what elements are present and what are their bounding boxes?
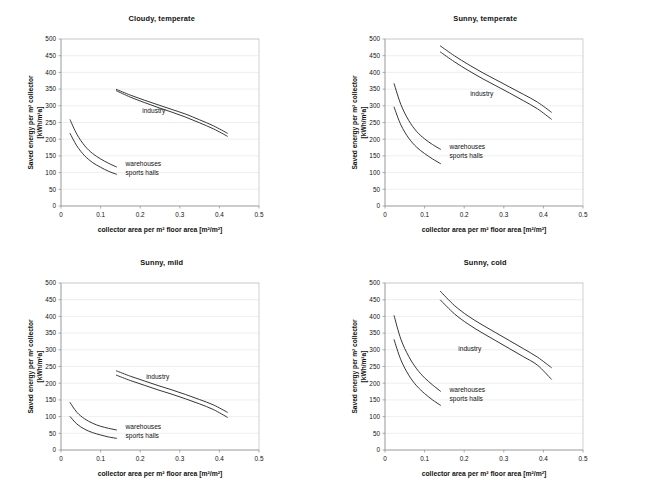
series-label: sports halls xyxy=(126,169,160,177)
plot-area: 05010015020025030035040045050000.10.20.3… xyxy=(0,0,324,244)
x-axis-ticks: 00.10.20.30.40.5 xyxy=(59,206,264,218)
x-tick-label: 0.4 xyxy=(538,455,547,462)
y-tick-label: 500 xyxy=(369,279,380,286)
x-tick-label: 0.5 xyxy=(578,455,587,462)
x-tick-label: 0.3 xyxy=(499,211,508,218)
chart-panel-3: Sunny, mild05010015020025030035040045050… xyxy=(0,244,324,488)
y-tick-label: 250 xyxy=(369,363,380,370)
chart-panel-4: Sunny, cold05010015020025030035040045050… xyxy=(324,244,647,488)
y-axis-ticks: 050100150200250300350400450500 xyxy=(45,279,61,453)
y-tick-label: 300 xyxy=(369,346,380,353)
y-axis-title-line1: Saved energy per m² collector xyxy=(351,319,359,414)
y-tick-label: 200 xyxy=(45,136,56,143)
x-tick-label: 0.3 xyxy=(175,455,184,462)
series-label: sports halls xyxy=(449,152,483,160)
x-tick-label: 0 xyxy=(383,211,387,218)
y-axis-ticks: 050100150200250300350400450500 xyxy=(369,279,385,453)
y-tick-label: 400 xyxy=(45,313,56,320)
y-tick-label: 0 xyxy=(376,446,380,453)
x-axis-ticks: 00.10.20.30.40.5 xyxy=(383,450,588,462)
plot-area: 05010015020025030035040045050000.10.20.3… xyxy=(324,244,647,488)
y-tick-label: 100 xyxy=(45,169,56,176)
x-tick-label: 0 xyxy=(59,211,63,218)
y-tick-label: 50 xyxy=(49,186,57,193)
y-tick-label: 200 xyxy=(369,380,380,387)
y-tick-label: 450 xyxy=(45,296,56,303)
y-tick-label: 450 xyxy=(369,52,380,59)
y-axis-title-line1: Saved energy per m² collector xyxy=(27,319,35,414)
series-label: industry xyxy=(146,373,170,381)
series-label: industry xyxy=(470,90,494,98)
x-axis-title: collector area per m² floor area [m²/m²] xyxy=(98,470,223,478)
x-tick-label: 0.1 xyxy=(96,211,105,218)
x-tick-label: 0.2 xyxy=(459,455,468,462)
x-tick-label: 0.3 xyxy=(499,455,508,462)
y-tick-label: 150 xyxy=(369,396,380,403)
y-tick-label: 250 xyxy=(369,119,380,126)
x-tick-label: 0.1 xyxy=(420,211,429,218)
series-label: sports halls xyxy=(126,432,160,440)
y-tick-label: 450 xyxy=(369,296,380,303)
x-axis-title: collector area per m² floor area [m²/m²] xyxy=(98,226,223,234)
series-label: sports halls xyxy=(449,395,483,403)
x-tick-label: 0.5 xyxy=(255,211,264,218)
series-label: warehouses xyxy=(125,160,162,167)
y-tick-label: 500 xyxy=(45,279,56,286)
y-tick-label: 500 xyxy=(369,35,380,42)
y-tick-label: 350 xyxy=(369,329,380,336)
y-tick-label: 500 xyxy=(45,35,56,42)
x-tick-label: 0.1 xyxy=(420,455,429,462)
y-tick-label: 250 xyxy=(45,119,56,126)
x-tick-label: 0.2 xyxy=(136,455,145,462)
series-label: industry xyxy=(458,345,482,353)
x-tick-label: 0.2 xyxy=(459,211,468,218)
series-label: warehouses xyxy=(448,143,485,150)
y-tick-label: 300 xyxy=(45,346,56,353)
x-tick-label: 0.1 xyxy=(96,455,105,462)
y-tick-label: 350 xyxy=(45,85,56,92)
y-tick-label: 400 xyxy=(369,313,380,320)
y-axis-title: Saved energy per m² collector[kWh/m²a] xyxy=(351,75,368,170)
y-tick-label: 0 xyxy=(52,202,56,209)
y-tick-label: 450 xyxy=(45,52,56,59)
y-tick-label: 350 xyxy=(369,85,380,92)
y-tick-label: 400 xyxy=(45,69,56,76)
chart-panel-1: Cloudy, temperate05010015020025030035040… xyxy=(0,0,324,244)
y-axis-title-line2: [kWh/m²a] xyxy=(359,107,367,139)
x-tick-label: 0 xyxy=(59,455,63,462)
x-tick-label: 0.5 xyxy=(255,455,264,462)
y-tick-label: 0 xyxy=(376,202,380,209)
y-tick-label: 100 xyxy=(45,413,56,420)
y-tick-label: 100 xyxy=(369,413,380,420)
y-tick-label: 350 xyxy=(45,329,56,336)
y-axis-ticks: 050100150200250300350400450500 xyxy=(369,35,385,209)
x-axis-title: collector area per m² floor area [m²/m²] xyxy=(421,470,546,478)
y-tick-label: 150 xyxy=(45,152,56,159)
y-tick-label: 150 xyxy=(45,396,56,403)
x-axis-title: collector area per m² floor area [m²/m²] xyxy=(421,226,546,234)
series-label: warehouses xyxy=(448,386,485,393)
y-tick-label: 300 xyxy=(45,102,56,109)
y-axis-title: Saved energy per m² collector[kWh/m²a] xyxy=(27,75,44,170)
plot-area: 05010015020025030035040045050000.10.20.3… xyxy=(0,244,324,488)
y-axis-title-line2: [kWh/m²a] xyxy=(36,107,44,139)
series-label: industry xyxy=(142,107,166,115)
y-tick-label: 0 xyxy=(52,446,56,453)
y-axis-title-line2: [kWh/m²a] xyxy=(36,351,44,383)
y-axis-title-line1: Saved energy per m² collector xyxy=(27,75,35,170)
y-tick-label: 200 xyxy=(369,136,380,143)
y-axis-title: Saved energy per m² collector[kWh/m²a] xyxy=(27,319,44,414)
x-tick-label: 0.5 xyxy=(578,211,587,218)
plot-area: 05010015020025030035040045050000.10.20.3… xyxy=(324,0,647,244)
x-tick-label: 0.2 xyxy=(136,211,145,218)
y-tick-label: 50 xyxy=(372,186,380,193)
y-tick-label: 250 xyxy=(45,363,56,370)
y-axis-title-line1: Saved energy per m² collector xyxy=(351,75,359,170)
y-tick-label: 50 xyxy=(49,430,57,437)
y-tick-label: 100 xyxy=(369,169,380,176)
y-axis-ticks: 050100150200250300350400450500 xyxy=(45,35,61,209)
y-axis-title: Saved energy per m² collector[kWh/m²a] xyxy=(351,319,368,414)
four-panel-chart-figure: Cloudy, temperate05010015020025030035040… xyxy=(0,0,647,488)
y-axis-title-line2: [kWh/m²a] xyxy=(359,351,367,383)
x-tick-label: 0.4 xyxy=(215,455,224,462)
